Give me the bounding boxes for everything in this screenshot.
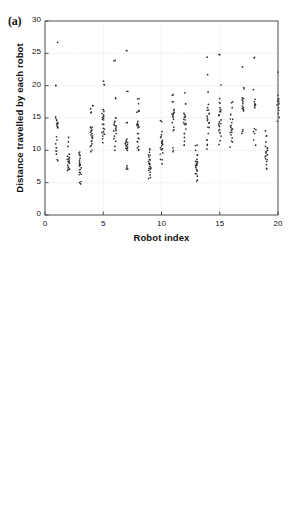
panel-a-y-tick-25: 25 [5,47,41,56]
panel-a-plot [0,0,293,254]
panel-a-x-tick-20: 20 [263,219,293,228]
panel-a-x-tick-15: 15 [205,219,235,228]
panel-a-gridlines [45,21,278,215]
panel-a-y-tick-20: 20 [5,80,41,89]
panel-a-y-tick-10: 10 [5,144,41,153]
panel-a-x-tick-10: 10 [147,219,177,228]
panel-a-y-tick-30: 30 [5,15,41,24]
panel-a-scatter: (a) Distance travelled by each robot Rob… [0,0,293,254]
panel-a-data-points [55,41,280,184]
panel-a-x-tick-5: 5 [88,219,118,228]
panel-a-y-tick-0: 0 [5,209,41,218]
figure-container: (a) Distance travelled by each robot Rob… [0,0,293,508]
panel-a-y-tick-5: 5 [5,177,41,186]
panel-b-line: (b) Average number of sources captured N… [0,254,293,508]
panel-a-x-tick-0: 0 [30,219,60,228]
panel-b-plot [0,254,293,508]
panel-a-y-tick-15: 15 [5,112,41,121]
